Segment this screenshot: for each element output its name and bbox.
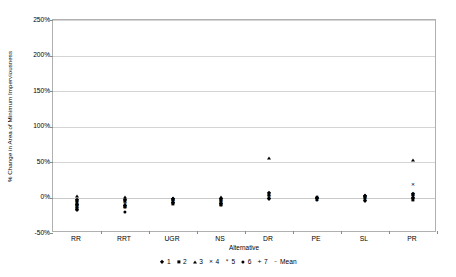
legend-marker-cross-icon xyxy=(208,258,214,265)
y-axis-title: % Change in Area of Minimum Imperviousne… xyxy=(0,0,20,232)
gridline xyxy=(53,91,435,92)
legend-entry-4[interactable]: 4 xyxy=(208,258,219,265)
y-axis-tickmark xyxy=(50,91,53,92)
legend-marker-diamond-icon xyxy=(159,258,165,265)
x-axis-tick-label-dr: DR xyxy=(244,234,292,243)
y-axis-tick-label: 250% xyxy=(20,16,50,23)
x-axis-tick-label-ns: NS xyxy=(196,234,244,243)
x-axis-tickmark xyxy=(437,231,438,234)
data-point-sl-diamond xyxy=(363,199,368,204)
legend-marker-plus-icon xyxy=(256,258,262,265)
zero-line xyxy=(53,198,435,199)
chart-legend: 1234567Mean xyxy=(0,258,456,265)
star-icon xyxy=(226,259,229,264)
x-axis-tick-label-sl: SL xyxy=(340,234,388,243)
y-axis-tick-label: 150% xyxy=(20,87,50,94)
legend-entry-mean[interactable]: Mean xyxy=(273,258,297,265)
gridline xyxy=(53,56,435,57)
y-axis-tick-label: -50% xyxy=(20,229,50,236)
y-axis-tick-labels: -50%0%50%100%150%200%250% xyxy=(18,0,50,277)
legend-label: 5 xyxy=(232,258,236,265)
y-axis-title-text: % Change in Area of Minimum Imperviousne… xyxy=(7,50,14,181)
data-point-pr-cross xyxy=(411,182,416,187)
circle-icon xyxy=(242,260,245,263)
legend-label: Mean xyxy=(280,258,297,265)
y-axis-tick-label: 50% xyxy=(20,158,50,165)
legend-entry-5[interactable]: 5 xyxy=(224,258,235,265)
x-axis-tick-label-rrt: RRT xyxy=(100,234,148,243)
legend-marker-star-icon xyxy=(224,258,230,265)
y-axis-tickmark xyxy=(50,162,53,163)
data-point-dr-triangle xyxy=(267,157,271,160)
x-axis-tick-label-pe: PE xyxy=(292,234,340,243)
legend-marker-circle-icon xyxy=(240,258,246,265)
legend-label: 3 xyxy=(199,258,203,265)
data-point-pe-cross xyxy=(315,198,320,203)
triangle-icon xyxy=(193,260,197,263)
legend-label: 4 xyxy=(215,258,219,265)
legend-label: 6 xyxy=(248,258,252,265)
legend-entry-6[interactable]: 6 xyxy=(240,258,251,265)
dash-icon xyxy=(274,259,277,264)
plus-icon xyxy=(257,259,262,264)
x-axis-tick-label-rr: RR xyxy=(52,234,100,243)
legend-entry-1[interactable]: 1 xyxy=(159,258,170,265)
legend-marker-dash-icon xyxy=(273,258,279,265)
x-axis-tick-label-pr: PR xyxy=(388,234,436,243)
gridline xyxy=(53,127,435,128)
y-axis-tick-label: 200% xyxy=(20,51,50,58)
gridline xyxy=(53,162,435,163)
x-axis-title: Alternative xyxy=(52,244,436,251)
data-point-ns-plus xyxy=(219,203,224,208)
legend-label: 7 xyxy=(264,258,268,265)
legend-label: 1 xyxy=(167,258,171,265)
data-point-pr-triangle xyxy=(411,158,415,161)
y-axis-tickmark xyxy=(50,56,53,57)
legend-marker-triangle-icon xyxy=(192,258,198,265)
cross-icon xyxy=(209,259,214,264)
legend-label: 2 xyxy=(183,258,187,265)
gridline xyxy=(53,20,435,21)
diamond-icon xyxy=(160,259,165,264)
legend-entry-3[interactable]: 3 xyxy=(192,258,203,265)
x-axis-tick-label-ugr: UGR xyxy=(148,234,196,243)
data-point-ugr-star xyxy=(172,202,175,207)
y-axis-tickmark xyxy=(50,127,53,128)
y-axis-tickmark xyxy=(50,198,53,199)
legend-marker-square-icon xyxy=(176,258,182,265)
data-point-pr-square xyxy=(411,198,414,201)
plot-area xyxy=(52,19,436,232)
y-axis-tick-label: 100% xyxy=(20,122,50,129)
chart-container: % Change in Area of Minimum Imperviousne… xyxy=(0,0,456,277)
legend-entry-2[interactable]: 2 xyxy=(176,258,187,265)
legend-entry-7[interactable]: 7 xyxy=(256,258,267,265)
square-icon xyxy=(177,260,180,263)
data-point-rrt-circle xyxy=(123,210,126,213)
y-axis-tickmark xyxy=(50,20,53,21)
y-axis-tick-label: 0% xyxy=(20,193,50,200)
